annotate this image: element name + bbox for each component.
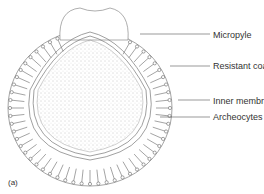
label-micropyle: Micropyle bbox=[213, 30, 252, 40]
panel-label: (a) bbox=[8, 178, 18, 187]
label-inner-membrane: Inner membrane bbox=[213, 96, 264, 106]
label-resistant-coat: Resistant coat bbox=[213, 61, 264, 71]
label-archeocytes: Archeocytes bbox=[213, 112, 263, 122]
micropyle bbox=[60, 8, 128, 40]
